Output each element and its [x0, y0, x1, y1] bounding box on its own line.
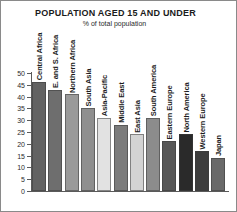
- chart-title: POPULATION AGED 15 AND UNDER: [1, 8, 230, 18]
- y-tick-mark: [27, 132, 31, 133]
- bar-slot[interactable]: East Asia: [130, 34, 144, 191]
- y-tick-label: 30: [9, 117, 25, 124]
- bar-slot[interactable]: South Asia: [81, 34, 95, 191]
- bar-category-label: Central Africa: [35, 33, 44, 81]
- y-tick-mark: [27, 108, 31, 109]
- y-tick-mark: [27, 156, 31, 157]
- bar[interactable]: [97, 118, 111, 191]
- bar-category-label: Middle East: [116, 83, 125, 124]
- bar[interactable]: [195, 151, 209, 191]
- bar[interactable]: [130, 134, 144, 191]
- bar-slot[interactable]: Eastern Europe: [162, 34, 176, 191]
- plot-area: 50454035302520151050 Central AfricaE. an…: [12, 34, 232, 196]
- bar[interactable]: [114, 125, 128, 191]
- y-tick-label: 20: [9, 141, 25, 148]
- bar-category-label: Eastern Europe: [165, 86, 174, 140]
- y-tick-mark: [27, 179, 31, 180]
- y-tick-label: 40: [9, 94, 25, 101]
- bar-category-label: North America: [181, 83, 190, 133]
- bar-slot[interactable]: Middle East: [114, 34, 128, 191]
- bar-slot[interactable]: Northern Africa: [65, 34, 79, 191]
- bar-category-label: South America: [149, 65, 158, 116]
- bar[interactable]: [32, 82, 46, 191]
- bar-slot[interactable]: Central Africa: [32, 34, 46, 191]
- y-tick-label: 15: [9, 153, 25, 160]
- bar[interactable]: [211, 158, 225, 191]
- bar-slot[interactable]: South America: [146, 34, 160, 191]
- y-tick-label: 45: [9, 82, 25, 89]
- bar-category-label: South Asia: [83, 69, 92, 107]
- chart-screenshot: POPULATION AGED 15 AND UNDER % of total …: [0, 0, 237, 212]
- y-tick-label: 50: [9, 70, 25, 77]
- y-tick-mark: [27, 97, 31, 98]
- bar[interactable]: [81, 108, 95, 191]
- y-tick-mark: [27, 73, 31, 74]
- y-tick-label: 25: [9, 129, 25, 136]
- bar-category-label: Japan: [214, 135, 223, 156]
- y-tick-mark: [27, 144, 31, 145]
- bar-slot[interactable]: North America: [179, 34, 193, 191]
- bar-slot[interactable]: Western Europe: [195, 34, 209, 191]
- x-axis-line: [31, 191, 229, 192]
- bar-slot[interactable]: E. and S. Africa: [48, 34, 62, 191]
- y-tick-mark: [27, 85, 31, 86]
- y-tick-mark: [27, 120, 31, 121]
- bar-category-label: Northern Africa: [67, 40, 76, 93]
- bar-slot[interactable]: Japan: [211, 34, 225, 191]
- y-tick-mark: [27, 191, 31, 192]
- bar[interactable]: [146, 118, 160, 191]
- bar-category-label: E. and S. Africa: [51, 35, 60, 88]
- y-tick-label: 35: [9, 105, 25, 112]
- y-tick-label: 0: [9, 188, 25, 195]
- bar[interactable]: [65, 94, 79, 191]
- bar-series: Central AfricaE. and S. AfricaNorthern A…: [32, 34, 229, 191]
- bar-category-label: Asia-Pacific: [100, 75, 109, 116]
- bar[interactable]: [162, 141, 176, 191]
- y-tick-mark: [27, 167, 31, 168]
- bar[interactable]: [179, 134, 193, 191]
- bar-category-label: Western Europe: [198, 93, 207, 149]
- bar[interactable]: [48, 90, 62, 191]
- y-tick-label: 10: [9, 164, 25, 171]
- y-tick-label: 5: [9, 176, 25, 183]
- bar-category-label: East Asia: [132, 100, 141, 133]
- chart-subtitle: % of total population: [1, 20, 228, 27]
- bar-slot[interactable]: Asia-Pacific: [97, 34, 111, 191]
